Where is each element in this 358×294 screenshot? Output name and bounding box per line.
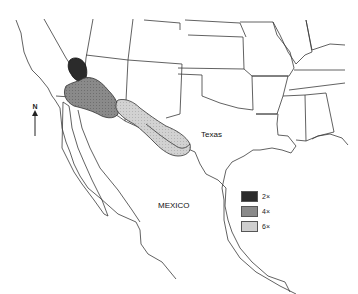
indiana-outline — [306, 20, 345, 50]
gulf-coast-east — [306, 134, 348, 145]
kansas-outline — [178, 35, 244, 69]
legend-item-4x: 4× — [241, 204, 270, 218]
legend-swatch-6x — [241, 221, 258, 232]
legend-label-4x: 4× — [262, 208, 270, 215]
legend: 2× 4× 6× — [241, 189, 270, 234]
baja-peninsula — [62, 102, 108, 216]
arkansas-outline — [252, 76, 288, 114]
legend-swatch-4x — [241, 206, 258, 217]
legend-item-2x: 2× — [241, 189, 270, 203]
sonora-coast — [78, 110, 140, 222]
mississippi-outline — [283, 95, 306, 141]
region-4x — [64, 78, 118, 118]
missouri-outline — [240, 22, 294, 76]
north-arrow: N — [30, 103, 40, 140]
co-ne-border — [144, 20, 180, 30]
legend-swatch-2x — [241, 191, 258, 202]
four-corners-line — [86, 55, 182, 64]
tennessee-border — [289, 83, 345, 90]
legend-label-6x: 6× — [262, 223, 270, 230]
alabama-outline — [305, 93, 334, 139]
map-canvas — [0, 0, 358, 294]
nv-ca-border — [44, 19, 72, 67]
illinois-outline — [273, 20, 312, 64]
mexico-label: MEXICO — [158, 201, 190, 210]
north-label: N — [30, 103, 40, 110]
legend-item-6x: 6× — [241, 219, 270, 233]
oklahoma-outline — [178, 69, 253, 110]
california-coast — [16, 20, 176, 279]
legend-label-2x: 2× — [262, 193, 270, 200]
nebraska-outline — [185, 20, 246, 37]
texas-label: Texas — [201, 130, 222, 139]
nm-tx-border — [166, 64, 182, 118]
louisiana-outline — [253, 114, 296, 153]
arrow-up-icon — [30, 110, 40, 136]
